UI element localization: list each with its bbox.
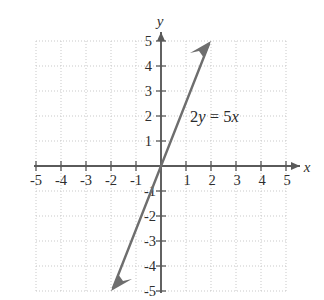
- x-tick-label-2: 2: [208, 172, 215, 188]
- coordinate-plane-svg: -5 -4 -3 -2 -1 1 2 3 4 5 5 4 3 2 1 -1 -2…: [0, 0, 324, 300]
- figure-background: [0, 0, 324, 300]
- equation-x-variable: x: [230, 107, 239, 126]
- y-tick-label--5: -5: [144, 283, 156, 299]
- y-tick-label--3: -3: [144, 233, 156, 249]
- x-tick-label--4: -4: [55, 172, 68, 188]
- y-tick-label-3: 3: [145, 83, 152, 99]
- y-tick-label-2: 2: [145, 108, 152, 124]
- y-tick-label--4: -4: [144, 258, 157, 274]
- equation-prefix: 2: [190, 107, 198, 126]
- x-tick-label-5: 5: [283, 172, 290, 188]
- x-tick-label--5: -5: [30, 172, 42, 188]
- y-axis-name-label: y: [155, 13, 164, 29]
- x-axis-name-label: x: [303, 159, 311, 175]
- y-tick-label-5: 5: [145, 33, 152, 49]
- x-tick-label--1: -1: [130, 172, 142, 188]
- x-tick-label-4: 4: [258, 172, 266, 188]
- y-tick-label--2: -2: [144, 208, 156, 224]
- equation-equals: = 5: [206, 107, 232, 126]
- x-tick-label--2: -2: [105, 172, 117, 188]
- x-tick-label--3: -3: [80, 172, 92, 188]
- y-tick-label-1: 1: [145, 133, 152, 149]
- x-tick-label-1: 1: [183, 172, 190, 188]
- equation-label: 2y = 5x: [190, 107, 239, 126]
- x-tick-label-3: 3: [233, 172, 240, 188]
- graph-figure: -5 -4 -3 -2 -1 1 2 3 4 5 5 4 3 2 1 -1 -2…: [0, 0, 324, 300]
- y-tick-label-4: 4: [145, 58, 153, 74]
